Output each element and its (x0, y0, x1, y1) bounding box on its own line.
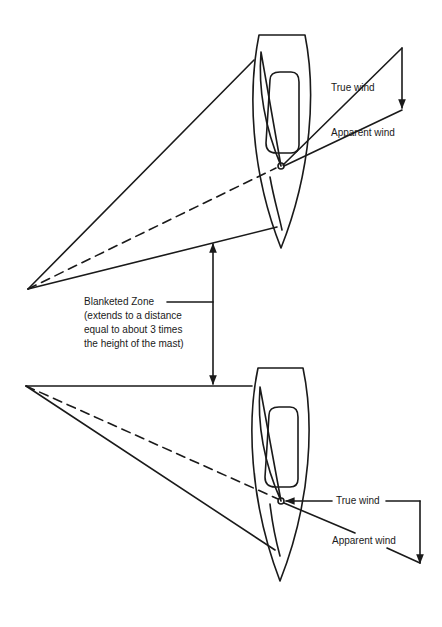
top-boat-hull (253, 35, 311, 248)
top-boat-mainsail (260, 52, 281, 166)
bottom-boat (252, 368, 309, 581)
top-blanket-zone (28, 60, 277, 289)
blanketed-zone-diagram: True wind Apparent wind True wind Appare… (0, 0, 442, 627)
bottom-apparent-wind-label: Apparent wind (332, 534, 396, 547)
top-cone-upper-edge (28, 60, 254, 289)
blanketed-zone-note-line1: (extends to a distance (84, 309, 182, 322)
bottom-blanket-zone (26, 386, 278, 550)
top-boat (253, 35, 311, 248)
bottom-wind-vectors (284, 501, 420, 563)
top-cone-centerline (28, 168, 276, 289)
top-true-wind-label: True wind (331, 81, 375, 94)
bottom-cone-lower-edge (26, 386, 275, 550)
bottom-apparent-wind-line-a (284, 503, 355, 533)
bottom-boat-mainsail (259, 387, 281, 501)
bottom-boat-cabin (265, 407, 298, 487)
blanketed-zone-note-line3: the height of the mast) (84, 337, 184, 350)
bottom-boat-hull (252, 368, 309, 581)
blanketed-zone-note-line2: equal to about 3 times (84, 323, 182, 336)
bottom-true-wind-label: True wind (336, 494, 380, 507)
top-apparent-wind-label: Apparent wind (331, 126, 395, 139)
blanketed-zone-label: Blanketed Zone (84, 295, 154, 308)
bottom-cone-centerline (26, 386, 278, 499)
top-true-wind-line (283, 48, 402, 165)
bottom-apparent-wind-line-b (387, 548, 420, 563)
top-cone-lower-edge (28, 227, 277, 289)
diagram-canvas (0, 0, 442, 627)
top-wind-vectors (283, 48, 402, 166)
